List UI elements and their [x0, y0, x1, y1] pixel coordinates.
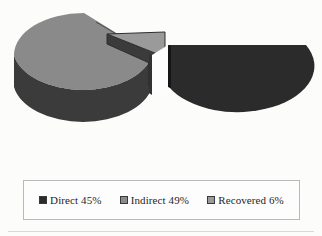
- legend-label-recovered: Recovered 6%: [218, 195, 284, 206]
- legend-label-indirect: Indirect 49%: [131, 195, 189, 206]
- scan-rule-artifact: [8, 231, 314, 232]
- legend-swatch-recovered: [207, 196, 215, 204]
- legend-swatch-indirect: [120, 196, 128, 204]
- legend-row: Direct 45% Indirect 49% Recovered 6%: [24, 181, 299, 219]
- pie-chart: [0, 0, 322, 170]
- slice-indirect-right-face: [149, 54, 152, 95]
- legend-swatch-direct: [39, 196, 47, 204]
- legend-item-indirect[interactable]: Indirect 49%: [120, 195, 189, 206]
- legend-item-recovered[interactable]: Recovered 6%: [207, 195, 284, 206]
- chart-legend: Direct 45% Indirect 49% Recovered 6%: [23, 180, 300, 220]
- legend-label-direct: Direct 45%: [50, 195, 101, 206]
- slice-direct-left-face: [168, 45, 171, 88]
- legend-item-direct[interactable]: Direct 45%: [39, 195, 101, 206]
- pie-chart-svg: [0, 0, 322, 170]
